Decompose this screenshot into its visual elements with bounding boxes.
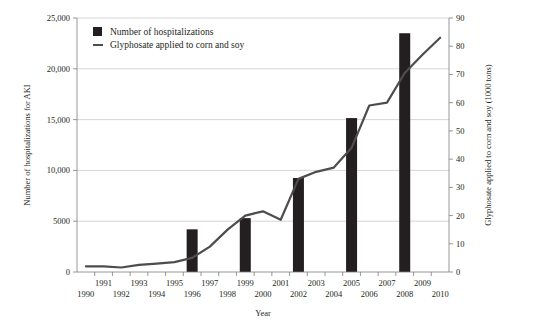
bar-1996 [187,229,198,272]
bar-1999 [240,218,251,272]
y-tick-label: 5000 [53,216,70,226]
legend-label-hospitalizations: Number of hospitalizations [110,27,214,37]
x-tick-label-2003: 2003 [308,278,325,288]
y-tick-label: 20,000 [47,64,70,74]
y2-axis-title: Glyphosate applied to corn and soy (1000… [483,64,493,225]
x-tick-label-1994: 1994 [148,289,166,299]
x-tick-label-2008: 2008 [396,289,413,299]
x-tick-label-1998: 1998 [219,289,236,299]
x-tick-label-1995: 1995 [166,278,183,288]
axes [77,18,449,272]
y2-tick-label: 20 [456,211,465,221]
y2-tick-label: 80 [456,41,465,51]
y2-tick-label: 50 [456,126,465,136]
x-tick-label-2010: 2010 [432,289,449,299]
x-tick-label-2002: 2002 [290,289,307,299]
legend: Number of hospitalizationsGlyphosate app… [93,27,245,50]
y2-tick-label: 0 [456,267,460,277]
x-tick-label-2000: 2000 [255,289,272,299]
y2-tick-label: 10 [456,239,465,249]
y2-tick-label: 70 [456,69,465,79]
glyphosate-line [86,38,440,268]
x-tick-label-1992: 1992 [113,289,130,299]
x-tick-label-1997: 1997 [201,278,218,288]
y2-tick-label: 90 [456,13,465,23]
chart-container: 0500010,00015,00020,00025,00001020304050… [0,0,545,329]
y-axis-left-ticks: 0500010,00015,00020,00025,000 [47,13,77,277]
x-tick-label-2004: 2004 [325,289,343,299]
x-tick-label-1996: 1996 [184,289,201,299]
y-tick-label: 10,000 [47,165,70,175]
legend-label-glyphosate: Glyphosate applied to corn and soy [110,40,245,50]
x-tick-label-1991: 1991 [95,278,112,288]
x-tick-label-2005: 2005 [343,278,360,288]
x-tick-label-2009: 2009 [414,278,431,288]
y2-tick-label: 60 [456,98,465,108]
y-axis-title: Number of hospitalizations for AKI [22,84,32,206]
x-tick-label-2006: 2006 [361,289,378,299]
y-axis-right-ticks: 0102030405060708090 [449,13,465,277]
x-tick-label-1999: 1999 [237,278,254,288]
x-tick-label-2001: 2001 [272,278,289,288]
y-tick-label: 25,000 [47,13,70,23]
y2-tick-label: 30 [456,182,465,192]
y-tick-label: 15,000 [47,115,70,125]
chart-svg: 0500010,00015,00020,00025,00001020304050… [0,0,545,329]
x-tick-label-1990: 1990 [77,289,94,299]
y2-tick-label: 40 [456,154,465,164]
x-tick-label-1993: 1993 [131,278,148,288]
legend-marker-hospitalizations [93,27,102,36]
y-tick-label: 0 [66,267,70,277]
x-tick-label-2007: 2007 [379,278,396,288]
bar-2002 [293,178,304,272]
x-axis-ticks: 1990199119921993199419951996199719981999… [77,272,448,299]
x-axis-title: Year [255,308,271,318]
